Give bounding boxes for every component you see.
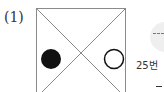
question-number-text: 25번 <box>136 57 158 72</box>
square-diagonal-figure <box>36 8 126 92</box>
filled-circle-icon <box>41 49 61 69</box>
dash-icon <box>153 33 164 34</box>
hollow-circle-icon <box>105 50 124 69</box>
figure-svg <box>36 8 126 92</box>
problem-number-label: (1) <box>4 9 24 25</box>
gray-circle-icon <box>150 22 164 52</box>
dash-mark <box>156 86 162 87</box>
